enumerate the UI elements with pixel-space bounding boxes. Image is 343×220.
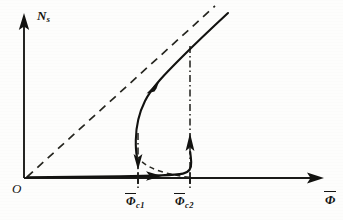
- tick-label-phi-c1-symbol: Φ: [126, 194, 135, 209]
- tick-label-phi-c2-symbol: Φ: [175, 194, 184, 209]
- stable-lower-branch: [27, 152, 191, 181]
- x-axis-label: Φ: [325, 192, 335, 208]
- origin-label: O: [12, 181, 21, 197]
- tick-label-phi-c1: Φc1: [126, 194, 145, 210]
- stable-upper-branch: [136, 13, 228, 156]
- tick-label-phi-c1-subscript: c1: [136, 200, 145, 210]
- figure-canvas: Ns O Φ Φc1 Φc2: [0, 0, 343, 220]
- x-axis-label-text: Φ: [325, 192, 335, 208]
- arrow-upper-branch-decreasing: [147, 81, 160, 94]
- asymptote-reference-line: [27, 6, 215, 177]
- tick-label-phi-c2-subscript: c2: [185, 200, 194, 210]
- y-axis-label-subscript: s: [46, 14, 50, 24]
- y-axis: [19, 13, 29, 178]
- tick-label-phi-c2: Φc2: [175, 194, 194, 210]
- plot-svg: [0, 0, 343, 220]
- y-axis-label: Ns: [37, 8, 50, 24]
- y-axis-label-text: N: [37, 8, 46, 23]
